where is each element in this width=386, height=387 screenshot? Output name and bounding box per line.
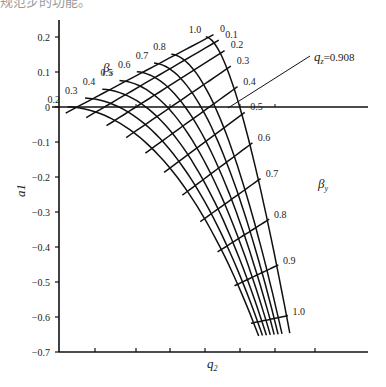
curve-labels: 0.20.30.40.50.60.70.81.000.10.20.30.40.5… — [47, 23, 305, 316]
y-tick-label: −0.3 — [32, 207, 50, 218]
beta-y-label: 0.5 — [250, 101, 263, 112]
beta-x-curves — [68, 37, 290, 336]
y-tick-label: −0.1 — [32, 137, 50, 148]
beta-x-label: 0.3 — [65, 85, 78, 96]
beta-y-label: 0.1 — [225, 29, 238, 40]
beta-y-label: 0.7 — [266, 168, 279, 179]
beta-y-label: 0.4 — [243, 76, 256, 87]
y-tick-label: −0.7 — [32, 347, 50, 358]
beta-y-label: 0.3 — [237, 55, 250, 66]
y-axis-title: a1 — [13, 184, 28, 197]
beta-x-label: 0.4 — [83, 76, 96, 87]
beta-y-line — [164, 112, 245, 172]
beta-y-line — [235, 265, 279, 286]
y-tick-label: 0.2 — [38, 32, 51, 43]
y-tick-label: −0.2 — [32, 172, 50, 183]
beta-y-title: βy — [317, 176, 328, 193]
beta-x-title: βx — [102, 60, 113, 77]
beta-y-label: 0.8 — [274, 209, 287, 220]
y-tick-label: −0.4 — [32, 242, 50, 253]
beta-y-line — [66, 35, 214, 113]
beta-y-label: 1.0 — [293, 306, 306, 317]
y-tick-label: −0.5 — [32, 277, 50, 288]
y-ticks: 0.20.10−0.1−0.2−0.3−0.4−0.5−0.6−0.7 — [32, 32, 59, 358]
beta-x-curve — [102, 89, 266, 335]
beta-x-label: 0.7 — [136, 50, 149, 61]
annotation-q: qz=0.908 — [314, 49, 355, 66]
beta-x-label: 1.0 — [189, 24, 202, 35]
beta-y-label: 0.6 — [258, 132, 271, 143]
beta-x-label: 0.2 — [47, 94, 60, 105]
y-tick-label: 0.1 — [38, 67, 51, 78]
beta-x-label: 0.8 — [153, 41, 166, 52]
beta-y-line — [145, 87, 237, 153]
beta-x-label: 0.6 — [118, 59, 131, 70]
y-tick-label: −0.6 — [32, 312, 50, 323]
x-axis-title: q2 — [207, 356, 218, 373]
beta-y-line — [200, 179, 260, 222]
beta-y-label: 0.9 — [283, 255, 296, 266]
chart-figure: 0.20.10−0.1−0.2−0.3−0.4−0.5−0.6−0.7 0.20… — [0, 0, 386, 387]
beta-y-label: 0.2 — [231, 39, 244, 50]
